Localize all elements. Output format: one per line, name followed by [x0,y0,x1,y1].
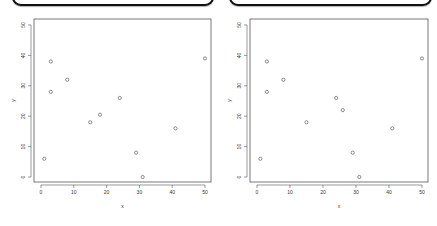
y-tick-label: 30 [20,83,26,89]
x-tick-label: 50 [419,189,425,195]
y-tick-label: 0 [236,175,242,178]
right-scatter-plot: 01020304050x01020304050y [226,19,428,209]
x-tick-label: 40 [386,189,392,195]
data-point [265,90,268,93]
y-tick-label: 50 [20,22,26,28]
y-tick-label: 30 [236,83,242,89]
y-axis-label: y [10,99,16,102]
data-point [98,113,101,116]
x-axis: 01020304050x [40,185,208,209]
data-point [49,60,52,63]
y-axis-label: y [226,99,232,102]
plot-frame [250,19,428,182]
x-tick-label: 40 [169,189,175,195]
y-tick-label: 50 [236,22,242,28]
data-point [43,157,46,160]
x-axis: 01020304050x [256,185,425,209]
data-point [203,57,206,60]
y-axis: 01020304050y [10,22,31,178]
data-point [335,96,338,99]
data-point [141,175,144,178]
y-axis: 01020304050y [226,22,247,178]
x-tick-label: 0 [40,189,43,195]
y-tick-label: 20 [236,113,242,119]
data-point [341,109,344,112]
data-point [265,60,268,63]
data-point [358,175,361,178]
x-tick-label: 10 [287,189,293,195]
x-tick-label: 50 [202,189,208,195]
x-tick-label: 0 [256,189,259,195]
data-point [89,121,92,124]
y-tick-label: 10 [236,144,242,150]
x-tick-label: 30 [137,189,143,195]
data-point [135,151,138,154]
x-tick-label: 30 [353,189,359,195]
y-tick-label: 0 [20,175,26,178]
x-axis-label: x [338,203,341,209]
y-tick-label: 40 [20,52,26,58]
data-point [351,151,354,154]
x-tick-label: 20 [320,189,326,195]
plot-frame [34,19,211,182]
x-tick-label: 20 [104,189,110,195]
data-points [259,57,424,179]
scatter-plots: 01020304050x01020304050y01020304050x0102… [0,0,437,226]
data-point [66,78,69,81]
data-point [174,127,177,130]
y-tick-label: 40 [236,52,242,58]
x-axis-label: x [121,203,124,209]
data-point [391,127,394,130]
x-tick-label: 10 [71,189,77,195]
data-points [43,57,207,179]
data-point [118,96,121,99]
y-tick-label: 10 [20,144,26,150]
data-point [305,121,308,124]
y-tick-label: 20 [20,113,26,119]
data-point [259,157,262,160]
left-scatter-plot: 01020304050x01020304050y [10,19,211,209]
data-point [282,78,285,81]
data-point [49,90,52,93]
data-point [420,57,423,60]
